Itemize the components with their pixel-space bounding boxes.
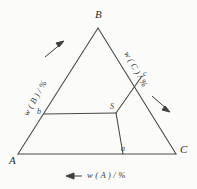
diagram-canvas (0, 0, 197, 189)
point-label-b-lower: b (37, 108, 41, 116)
vertex-label-a: A (9, 155, 16, 166)
axis-label-w-a: w ( A ) / % (87, 171, 125, 180)
point-label-a-lower: a (121, 145, 125, 153)
axis-a-arrow (66, 173, 82, 179)
ternary-phase-diagram: B A C S b a c w ( B ) / % w ( C ) / % w … (0, 0, 197, 189)
triangle-edge-bc (98, 28, 176, 154)
tie-line-b-s (44, 113, 116, 114)
vertex-label-c: C (180, 144, 188, 155)
point-label-s: S (110, 103, 114, 111)
axis-c-arrow (152, 96, 170, 112)
axis-b-arrow (45, 41, 64, 57)
vertex-label-b: B (95, 9, 102, 20)
